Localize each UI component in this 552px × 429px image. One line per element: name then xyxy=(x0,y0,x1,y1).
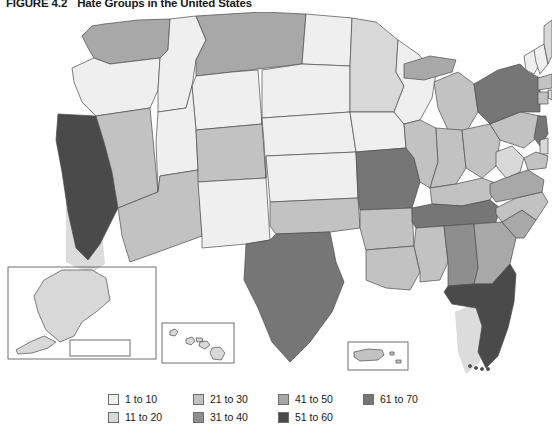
state-louisiana xyxy=(366,246,420,290)
state-massachusetts xyxy=(538,74,552,90)
state-alabama xyxy=(444,224,478,286)
us-hate-groups-choropleth-map xyxy=(0,12,552,384)
legend-item-41-to-50[interactable]: 41 to 50 xyxy=(278,390,363,408)
territory-puerto-rico-islets-2 xyxy=(396,360,401,363)
state-rhode-island xyxy=(548,90,552,100)
legend-label-1-to-10: 1 to 10 xyxy=(125,394,157,405)
legend-swatch-1-to-10 xyxy=(108,394,119,405)
state-north-dakota xyxy=(302,14,352,66)
state-colorado xyxy=(196,124,266,182)
figure-container: FIGURE 4.2Hate Groups in the United Stat… xyxy=(0,0,552,429)
state-oregon xyxy=(72,58,160,116)
state-hawaii-kauai xyxy=(170,329,178,336)
state-hawaii-oahu xyxy=(186,337,195,345)
state-hawaii-molokai xyxy=(196,338,203,342)
legend-label-21-to-30: 21 to 30 xyxy=(210,394,248,405)
legend-swatch-11-to-20 xyxy=(108,412,119,423)
state-washington xyxy=(82,19,170,64)
state-iowa xyxy=(350,112,406,152)
legend-item-11-to-20[interactable]: 11 to 20 xyxy=(108,408,193,426)
legend-swatch-61-to-70 xyxy=(363,394,374,405)
legend-label-41-to-50: 41 to 50 xyxy=(295,394,333,405)
state-hawaii-maui xyxy=(199,341,210,349)
territory-puerto-rico xyxy=(354,349,384,361)
alaska-inset xyxy=(8,267,156,359)
legend-item-61-to-70[interactable]: 61 to 70 xyxy=(363,390,448,408)
figure-title: FIGURE 4.2Hate Groups in the United Stat… xyxy=(6,0,252,10)
hawaii-inset-frame xyxy=(162,323,234,363)
legend-swatch-31-to-40 xyxy=(193,412,204,423)
territory-puerto-rico-islets xyxy=(390,352,394,355)
legend-item-51-to-60[interactable]: 51 to 60 xyxy=(278,408,363,426)
legend-swatch-51-to-60 xyxy=(278,412,289,423)
map-svg xyxy=(0,12,552,384)
legend-swatch-41-to-50 xyxy=(278,394,289,405)
puerto-rico-inset xyxy=(348,342,408,370)
legend-item-21-to-30[interactable]: 21 to 30 xyxy=(193,390,278,408)
state-ohio xyxy=(462,124,500,178)
legend-item-1-to-10[interactable]: 1 to 10 xyxy=(108,390,193,408)
legend-label-51-to-60: 51 to 60 xyxy=(295,412,333,423)
figure-number: FIGURE 4.2 xyxy=(6,0,67,9)
legend-swatch-21-to-30 xyxy=(193,394,204,405)
state-missouri xyxy=(356,148,420,210)
map-legend: 1 to 10 11 to 20 21 to 30 31 to 40 41 to… xyxy=(108,390,468,426)
state-delaware xyxy=(540,138,548,154)
state-alaska xyxy=(34,270,110,342)
legend-label-11-to-20: 11 to 20 xyxy=(125,412,162,423)
state-connecticut xyxy=(538,92,548,104)
hawaii-inset xyxy=(162,323,234,363)
legend-label-61-to-70: 61 to 70 xyxy=(380,394,418,405)
state-minnesota xyxy=(350,18,404,112)
state-hawaii-big-island xyxy=(210,347,225,360)
state-new-mexico xyxy=(198,178,270,248)
legend-label-31-to-40: 31 to 40 xyxy=(210,412,248,423)
legend-grid: 1 to 10 11 to 20 21 to 30 31 to 40 41 to… xyxy=(108,390,468,426)
state-arkansas xyxy=(360,208,414,250)
state-wyoming xyxy=(192,70,262,130)
legend-item-31-to-40[interactable]: 31 to 40 xyxy=(193,408,278,426)
state-kansas xyxy=(266,152,358,202)
page-title: Hate Groups in the United States xyxy=(77,0,252,9)
legend-item-empty xyxy=(363,408,448,426)
state-texas xyxy=(244,232,344,362)
state-alaska-aleutians xyxy=(16,336,56,354)
state-oklahoma xyxy=(270,198,360,234)
state-maryland xyxy=(524,152,548,170)
alaska-sub-inset-frame xyxy=(70,340,130,356)
state-michigan xyxy=(434,72,478,132)
